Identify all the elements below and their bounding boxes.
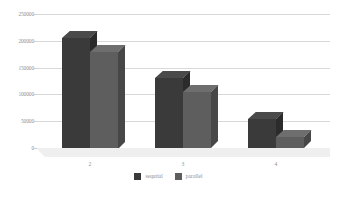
plot-area	[36, 14, 330, 148]
legend-item-parallel[interactable]: parallel	[175, 172, 203, 180]
bar-parallel-2	[90, 52, 118, 149]
legend-swatch-icon	[175, 173, 182, 180]
x-axis-tick-label: 2	[89, 160, 92, 168]
chart-container: 250000 200000 150000 100000 50000 0	[0, 0, 337, 200]
y-axis-tick-label: 200000	[0, 38, 34, 44]
gridline	[36, 14, 330, 15]
x-axis-tick-label: 4	[275, 160, 278, 168]
bar-front-face	[183, 92, 211, 148]
y-axis: 250000 200000 150000 100000 50000 0	[0, 14, 34, 148]
bar-front-face	[276, 137, 304, 148]
bar-parallel-4	[276, 137, 304, 148]
bar-front-face	[62, 38, 90, 148]
chart-legend: sequtial parallel	[0, 172, 337, 180]
bar-front-face	[155, 78, 183, 148]
bar-sequtial-2	[62, 38, 90, 148]
legend-swatch-icon	[134, 173, 141, 180]
bar-parallel-3	[183, 92, 211, 148]
y-axis-tick-label: 0	[0, 145, 34, 151]
bar-side-face	[211, 85, 218, 148]
x-axis-tick-label: 3	[182, 160, 185, 168]
floor-plane	[36, 148, 330, 157]
y-axis-tick-label: 100000	[0, 91, 34, 97]
bar-side-face	[118, 45, 125, 149]
y-axis-tick-label: 50000	[0, 118, 34, 124]
y-axis-tick-label: 150000	[0, 65, 34, 71]
x-axis: 2 3 4	[36, 160, 330, 170]
legend-label: sequtial	[145, 172, 162, 180]
bar-sequtial-3	[155, 78, 183, 148]
legend-item-sequtial[interactable]: sequtial	[134, 172, 162, 180]
y-axis-tick-label: 250000	[0, 11, 34, 17]
bar-front-face	[248, 119, 276, 149]
bar-front-face	[90, 52, 118, 149]
bar-sequtial-4	[248, 119, 276, 149]
legend-label: parallel	[186, 172, 203, 180]
